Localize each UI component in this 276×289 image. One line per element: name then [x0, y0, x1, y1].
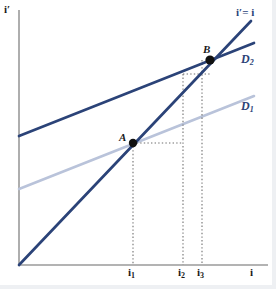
- tick-label-i1: i1: [128, 267, 135, 278]
- tick-label-i3-subscript: 3: [200, 271, 204, 280]
- equilibrium-point-b-label: B: [203, 44, 210, 55]
- tick-label-i2-subscript: 2: [181, 271, 185, 280]
- page-edge-bottom: [0, 285, 276, 289]
- interest-rate-diagram: i′ i i′= i D2 D1 A B i1 i2 i3: [0, 0, 276, 289]
- demand-curve-d1-label: D1: [241, 100, 254, 112]
- demand-curve-d2-subscript: 2: [250, 58, 254, 67]
- tick-label-i2: i2: [178, 267, 185, 278]
- guide-lines: [133, 60, 211, 265]
- plot-canvas: [0, 0, 276, 289]
- equilibrium-point-b-dot: [205, 55, 214, 64]
- tick-label-i3: i3: [197, 267, 204, 278]
- x-axis-label: i: [250, 267, 253, 278]
- identity-line-label: i′= i: [236, 7, 254, 18]
- demand-curve-d2-label: D2: [241, 53, 254, 65]
- demand-curve-d2-line: [19, 43, 254, 136]
- equilibrium-point-a-dot: [129, 139, 137, 147]
- tick-label-i1-subscript: 1: [131, 271, 135, 280]
- equilibrium-point-a-label: A: [119, 132, 126, 143]
- y-axis-label: i′: [4, 4, 10, 15]
- page-edge-right: [272, 0, 276, 289]
- demand-curve-d1-subscript: 1: [250, 105, 254, 114]
